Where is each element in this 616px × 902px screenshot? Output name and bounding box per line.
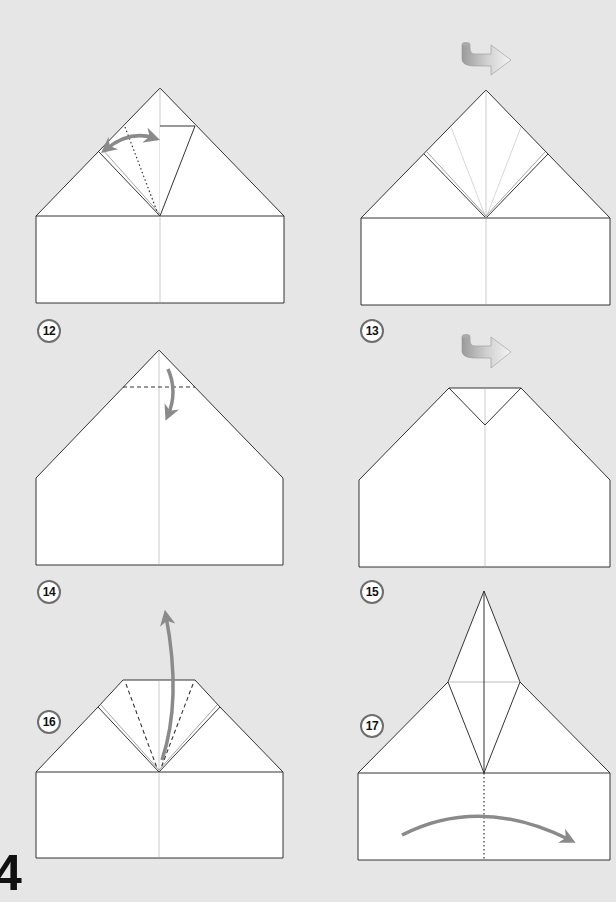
origami-diagram-canvas <box>0 0 616 902</box>
step-label-13: 13 <box>360 319 384 343</box>
step-12-diagram <box>36 88 284 303</box>
page-number: 4 <box>0 848 22 898</box>
step-label-17: 17 <box>360 714 384 738</box>
step-label-12: 12 <box>37 319 61 343</box>
turn-over-arrow-icon <box>462 334 511 368</box>
step-13-diagram <box>361 42 610 305</box>
turn-over-arrow-icon <box>462 42 511 75</box>
step-label-16: 16 <box>37 710 61 734</box>
step-15-diagram <box>359 334 610 567</box>
step-label-15: 15 <box>360 580 384 604</box>
step-label-14: 14 <box>37 580 61 604</box>
step-16-diagram <box>36 616 283 858</box>
step-14-diagram <box>36 350 283 565</box>
step-17-diagram <box>358 591 610 860</box>
